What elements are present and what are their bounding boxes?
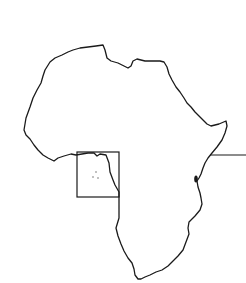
map-background — [0, 0, 246, 283]
lake-marker — [194, 176, 198, 183]
africa-outline-map — [0, 0, 246, 283]
map-container — [0, 0, 246, 283]
inset-dot — [92, 176, 93, 177]
inset-dot — [95, 171, 96, 172]
inset-dot — [97, 177, 98, 178]
